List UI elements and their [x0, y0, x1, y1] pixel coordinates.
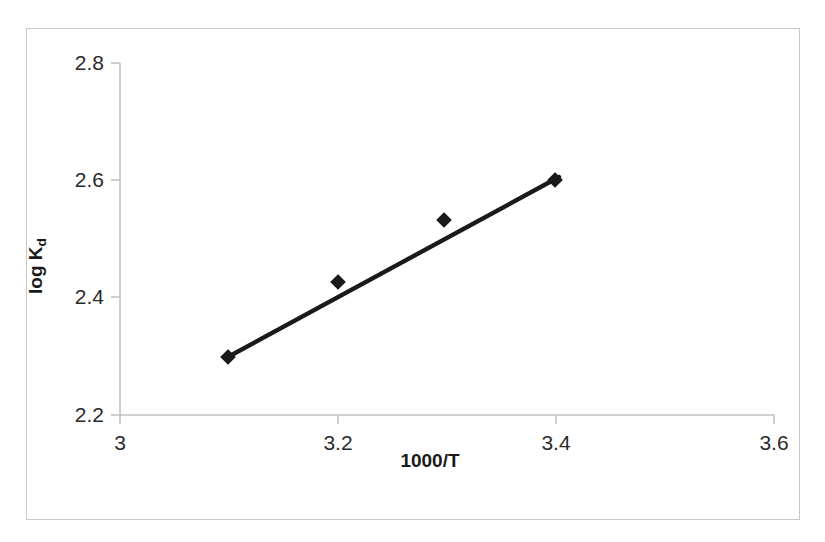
y-axis-title-base: log K — [25, 246, 46, 294]
y-tick-marks — [111, 63, 120, 415]
y-axis-title-subscript: d — [34, 238, 49, 246]
y-axis-title: log Kd — [25, 186, 47, 346]
y-tick-label-2-8: 2.8 — [44, 52, 104, 73]
trendline-group — [226, 177, 559, 358]
x-tick-marks — [120, 415, 774, 424]
x-tick-label-3-4: 3.4 — [526, 432, 586, 453]
trendline — [226, 177, 559, 358]
x-axis-title: 1000/T — [330, 450, 530, 472]
y-tick-label-2-4: 2.4 — [44, 286, 104, 307]
x-tick-label-3-6: 3.6 — [744, 432, 804, 453]
data-point-3 — [437, 213, 451, 227]
x-tick-label-3: 3 — [90, 432, 150, 453]
data-point-2 — [331, 275, 345, 289]
screenshot-root: 2.8 2.6 2.4 2.2 3 3.2 3.4 3.6 1000/T log… — [0, 0, 825, 542]
y-tick-label-2-6: 2.6 — [44, 169, 104, 190]
y-tick-label-2-2: 2.2 — [44, 404, 104, 425]
chart-figure: 2.8 2.6 2.4 2.2 3 3.2 3.4 3.6 1000/T log… — [0, 0, 825, 542]
